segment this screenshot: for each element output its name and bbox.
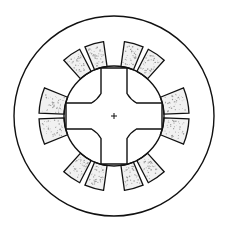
coil-speckle bbox=[62, 100, 63, 101]
coil-speckle bbox=[44, 121, 45, 122]
coil-speckle bbox=[134, 57, 135, 58]
coil-speckle bbox=[90, 49, 91, 50]
coil-speckle bbox=[99, 50, 100, 51]
coil-speckle bbox=[76, 160, 78, 162]
coil-speckle bbox=[81, 173, 82, 174]
coil-speckle bbox=[98, 167, 99, 168]
coil-speckle bbox=[144, 70, 146, 72]
coil-speckle bbox=[172, 96, 173, 97]
coil-speckle bbox=[137, 55, 138, 56]
coil-speckle bbox=[150, 163, 151, 164]
coil-speckle bbox=[138, 179, 139, 180]
coil-speckle bbox=[155, 62, 156, 63]
coil-speckle bbox=[60, 104, 61, 105]
coil-speckle bbox=[101, 168, 102, 169]
coil-speckle bbox=[103, 169, 104, 170]
coil-speckle bbox=[173, 120, 174, 121]
coil-speckle bbox=[153, 69, 154, 70]
coil-speckle bbox=[147, 60, 148, 61]
coil-speckle bbox=[143, 68, 144, 69]
coil-speckle bbox=[151, 59, 152, 60]
coil-speckle bbox=[167, 127, 168, 128]
coil-speckle bbox=[88, 49, 89, 50]
coil-speckle bbox=[52, 98, 53, 99]
coil-speckle bbox=[126, 185, 127, 186]
coil-speckle bbox=[82, 165, 83, 166]
coil-speckle bbox=[67, 62, 68, 63]
coil-speckle bbox=[70, 172, 72, 174]
coil-speckle bbox=[150, 169, 151, 170]
coil-speckle bbox=[127, 177, 128, 178]
coil-speckle bbox=[42, 123, 43, 124]
coil-speckle bbox=[78, 71, 79, 72]
coil-speckle bbox=[61, 125, 62, 126]
coil-speckle bbox=[82, 164, 83, 165]
coil-speckle bbox=[48, 128, 50, 130]
coil-speckle bbox=[149, 168, 150, 169]
coil-speckle bbox=[179, 129, 180, 130]
coil-speckle bbox=[96, 179, 97, 180]
coil-speckle bbox=[74, 57, 75, 58]
coil-speckle bbox=[83, 65, 85, 67]
coil-speckle bbox=[91, 174, 92, 175]
coil-speckle bbox=[80, 63, 81, 64]
coil-speckle bbox=[169, 132, 170, 133]
coil-speckle bbox=[96, 58, 97, 59]
coil-speckle bbox=[62, 127, 63, 128]
coil-speckle bbox=[144, 61, 145, 62]
coil-speckle bbox=[78, 72, 79, 73]
coil-speckle bbox=[80, 175, 81, 176]
coil-speckle bbox=[46, 131, 47, 132]
coil-speckle bbox=[42, 111, 43, 112]
coil-speckle bbox=[94, 180, 95, 181]
coil-speckle bbox=[173, 122, 174, 123]
coil-speckle bbox=[71, 63, 72, 64]
coil-speckle bbox=[102, 62, 104, 64]
coil-speckle bbox=[46, 97, 47, 98]
coil-speckle bbox=[101, 171, 102, 172]
coil-speckle bbox=[56, 126, 57, 127]
coil-speckle bbox=[101, 54, 102, 55]
coil-speckle bbox=[94, 169, 95, 170]
coil-speckle bbox=[143, 161, 144, 162]
coil-speckle bbox=[97, 55, 98, 56]
coil-speckle bbox=[144, 163, 145, 164]
coil-speckle bbox=[103, 172, 104, 173]
coil-speckle bbox=[146, 70, 147, 71]
coil-speckle bbox=[126, 167, 127, 168]
coil-speckle bbox=[178, 132, 179, 133]
coil-speckle bbox=[167, 125, 168, 126]
coil-speckle bbox=[79, 168, 80, 169]
coil-block-left-2 bbox=[39, 88, 68, 114]
coil-speckle bbox=[155, 169, 157, 171]
coil-speckle bbox=[72, 62, 73, 63]
coil-speckle bbox=[92, 55, 93, 56]
coil-speckle bbox=[48, 129, 49, 130]
coil-speckle bbox=[56, 107, 58, 109]
coil-speckle bbox=[142, 69, 143, 70]
coil-speckle bbox=[102, 54, 103, 55]
coil-speckle bbox=[170, 106, 171, 107]
coil-speckle bbox=[173, 106, 174, 107]
coil-speckle bbox=[78, 175, 79, 176]
coil-speckle bbox=[139, 182, 140, 183]
coil-speckle bbox=[126, 57, 127, 58]
coil-speckle bbox=[50, 128, 51, 129]
coil-speckle bbox=[89, 180, 90, 181]
coil-speckle bbox=[143, 170, 144, 171]
coil-speckle bbox=[54, 119, 55, 120]
coil-speckle bbox=[182, 100, 183, 101]
coil-speckle bbox=[81, 65, 82, 66]
coil-speckle bbox=[95, 181, 96, 182]
coil-speckle bbox=[179, 126, 181, 128]
coil-speckle bbox=[127, 55, 128, 56]
coil-speckle bbox=[129, 176, 131, 178]
coil-speckle bbox=[127, 184, 128, 185]
coil-speckle bbox=[136, 177, 137, 178]
coil-speckle bbox=[131, 53, 132, 54]
coil-speckle bbox=[58, 100, 59, 101]
coil-speckle bbox=[91, 50, 92, 51]
motor-diagram bbox=[0, 0, 228, 230]
coil-speckle bbox=[125, 181, 126, 182]
coil-speckle bbox=[148, 166, 149, 167]
